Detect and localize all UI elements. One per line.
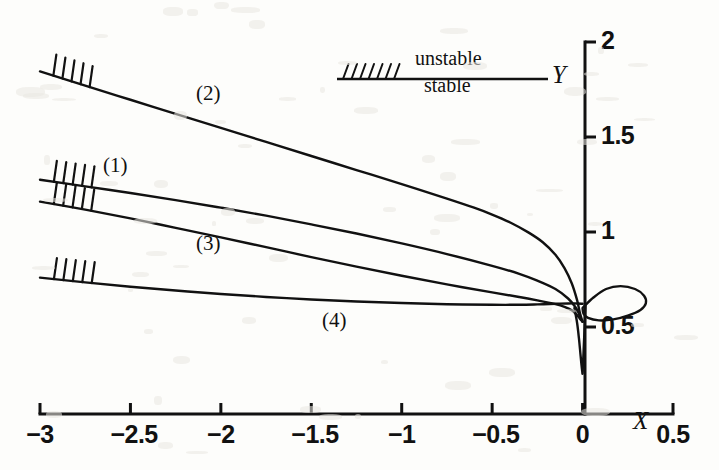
scan-artifact — [451, 139, 480, 145]
legend-hatch-tick — [343, 64, 349, 79]
hatch-tick — [82, 165, 85, 186]
hatch-tick — [71, 60, 74, 81]
legend-hatch-tick — [394, 64, 400, 79]
curve-label: (3) — [196, 233, 221, 254]
scan-artifact — [246, 218, 264, 224]
hatch-tick — [63, 259, 66, 280]
scan-artifact — [186, 451, 208, 454]
y-tick-label: 1.5 — [601, 123, 634, 148]
legend-stable-label: stable — [424, 75, 471, 95]
x-tick-label: −2.5 — [110, 422, 150, 447]
hatch-tick — [91, 190, 94, 211]
y-tick-label: 0.5 — [601, 313, 634, 338]
axes — [40, 42, 673, 414]
x-tick-label: −1 — [382, 422, 422, 447]
scan-artifact — [269, 254, 288, 262]
curve-2 — [40, 71, 583, 321]
curve-label: (4) — [322, 310, 347, 331]
scan-artifact — [144, 329, 153, 334]
hatch-tick — [63, 162, 66, 183]
y-axis-label: Y — [552, 62, 566, 87]
scan-artifact — [634, 118, 656, 121]
scan-artifact — [174, 111, 187, 120]
hatch-tick — [82, 188, 85, 209]
hatch-tick — [90, 66, 93, 87]
scan-artifact — [434, 214, 460, 222]
scan-artifact — [134, 218, 157, 224]
scan-artifact — [596, 97, 619, 101]
x-tick-label: 0 — [563, 422, 603, 447]
hatch-tick — [73, 186, 76, 207]
scan-artifact — [231, 7, 260, 13]
scan-artifact — [212, 221, 216, 226]
scan-artifact — [551, 317, 572, 324]
scan-artifact — [422, 155, 435, 163]
scan-artifact — [598, 47, 603, 54]
scan-artifact — [146, 251, 167, 256]
scan-artifact — [187, 9, 197, 16]
scan-artifact — [338, 61, 357, 65]
hatch-tick — [92, 262, 95, 283]
scan-artifact — [46, 411, 62, 418]
scan-artifact — [577, 139, 597, 145]
scan-artifact — [540, 307, 552, 310]
hatch-tick — [81, 63, 84, 84]
scan-artifact — [440, 28, 468, 34]
hatch-tick — [73, 260, 76, 281]
x-tick-label: −3 — [20, 422, 60, 447]
scan-artifact — [132, 272, 149, 277]
hatch-tick — [73, 164, 76, 185]
scan-artifact — [320, 87, 325, 92]
x-tick-label: −1.5 — [291, 422, 331, 447]
scan-artifact — [238, 144, 252, 148]
scan-artifact — [564, 87, 586, 97]
curve-4 — [40, 278, 583, 305]
scan-artifact — [32, 266, 55, 270]
y-tick-label: 1 — [601, 218, 614, 243]
scan-artifact — [100, 181, 118, 186]
scan-artifact — [214, 2, 228, 9]
scan-artifact — [628, 63, 648, 67]
legend-hatch-tick — [386, 64, 392, 79]
scan-artifact — [319, 414, 343, 420]
scan-artifact — [128, 288, 133, 292]
scan-artifact — [557, 309, 576, 314]
scan-artifact — [154, 396, 161, 405]
scan-artifact — [52, 98, 76, 101]
scan-artifact — [445, 381, 472, 390]
scan-artifact — [588, 222, 602, 226]
hatch-tick — [54, 161, 57, 182]
scan-artifact — [23, 93, 48, 99]
scan-artifact — [381, 360, 388, 364]
hatch-tick — [63, 185, 66, 206]
x-tick-label: −0.5 — [472, 422, 512, 447]
x-tick-label: 0.5 — [653, 422, 693, 447]
scan-artifact — [221, 208, 235, 216]
scan-artifact — [490, 203, 498, 209]
scan-artifact — [489, 368, 515, 377]
scan-artifact — [44, 155, 50, 165]
legend-hatch-tick — [377, 64, 383, 79]
scan-artifact — [536, 189, 563, 192]
x-axis-label: X — [633, 408, 648, 433]
hatch-tick — [53, 55, 56, 76]
hatch-tick — [82, 261, 85, 282]
legend-hatch-tick — [369, 64, 375, 79]
scan-artifact — [158, 442, 174, 449]
scan-artifact — [463, 62, 487, 70]
scan-artifact — [383, 207, 396, 212]
hatch-tick — [62, 58, 65, 79]
scan-artifact — [518, 448, 531, 452]
legend-hatch-tick — [352, 64, 358, 79]
scan-artifact — [581, 408, 609, 416]
curve-label: (1) — [103, 155, 128, 176]
scan-artifact — [249, 20, 265, 29]
x-tick-label: −2 — [201, 422, 241, 447]
scan-artifact — [154, 180, 168, 188]
scan-artifact — [430, 229, 440, 235]
figure-canvas: −3−2.5−2−1.5−1−0.500.5 0.511.52 X Y unst… — [0, 0, 719, 470]
scan-artifact — [355, 414, 361, 418]
scan-artifact — [242, 317, 256, 324]
scan-artifact — [300, 406, 321, 413]
scan-artifact — [163, 7, 183, 15]
